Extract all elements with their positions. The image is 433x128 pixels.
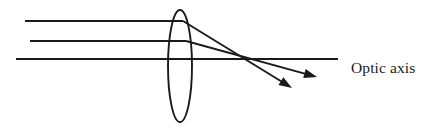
middle-refracted-ray-arrowhead <box>303 69 317 78</box>
optic-axis-label: Optic axis <box>351 59 415 76</box>
upper-refracted-ray-arrowhead <box>279 77 292 88</box>
optics-figure: Optic axis <box>0 0 433 128</box>
upper-refracted-ray <box>183 21 284 83</box>
middle-refracted-ray <box>186 41 308 75</box>
converging-lens-ellipse <box>168 10 192 122</box>
